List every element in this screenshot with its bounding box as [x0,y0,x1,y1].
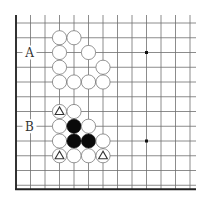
white-stone [96,149,110,163]
black-stone [67,119,81,133]
white-stone [52,149,66,163]
black-stone [81,134,95,148]
star-point [145,51,148,54]
label-b: B [25,120,34,134]
white-stone [52,60,66,74]
white-stone [67,75,81,89]
label-a: A [24,46,34,60]
white-stone [81,119,95,133]
white-stone [96,134,110,148]
black-stone [67,134,81,148]
position-labels: AB [23,46,37,134]
star-point [145,140,148,143]
white-stone [52,45,66,59]
go-board-diagram: AB [0,0,208,205]
white-stone [67,104,81,118]
white-stone [81,75,95,89]
white-stone [96,60,110,74]
board-grid [15,15,196,190]
white-stone [81,45,95,59]
white-stone [52,119,66,133]
white-stone [67,31,81,45]
white-stone [52,31,66,45]
white-stone [52,75,66,89]
white-stone [52,134,66,148]
white-stone [52,104,66,118]
white-stone [81,149,95,163]
white-stone [96,75,110,89]
white-stone [67,149,81,163]
